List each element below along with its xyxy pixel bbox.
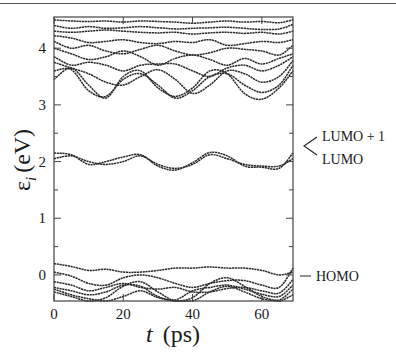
- y-tick-label: 3: [39, 97, 47, 113]
- y-tick-label: 2: [39, 154, 47, 170]
- y-axis-title: εi(eV): [9, 129, 39, 191]
- orbital-curve-l-7: [54, 41, 293, 55]
- x-tick-label: 40: [185, 306, 200, 322]
- x-tick-label: 60: [254, 306, 269, 322]
- energy-level-chart: 01234 0204060 t (ps) εi(eV) LUMO + 1 LUM…: [0, 0, 396, 359]
- annotation-homo: HOMO: [316, 269, 359, 284]
- x-tick-label: 20: [116, 306, 131, 322]
- annotation-lumo-plus-1: LUMO + 1: [322, 129, 385, 144]
- y-tick-label: 0: [39, 267, 47, 283]
- orbital-curve-l-4: [54, 61, 293, 94]
- x-axis-title: t (ps): [146, 321, 200, 347]
- x-tick-label: 0: [50, 306, 58, 322]
- y-tick-label: 1: [39, 210, 47, 226]
- orbital-curve-l-11: [54, 20, 293, 23]
- orbital-curve-l-10: [54, 24, 293, 29]
- orbital-curve-homo: [54, 264, 293, 275]
- orbital-energy-curves: [54, 20, 293, 301]
- orbital-curve-l-2: [54, 68, 293, 99]
- y-tick-label: 4: [39, 40, 47, 56]
- y-axis-ticks: 01234: [39, 40, 294, 283]
- lumo-bracket-icon: [304, 137, 317, 155]
- orbital-curve-lumo: [54, 155, 293, 169]
- orbital-curve-homo-2: [54, 280, 293, 294]
- orbital-curve-l-9: [54, 30, 293, 34]
- annotation-lumo: LUMO: [322, 152, 363, 167]
- orbital-curve-l-8: [54, 36, 293, 46]
